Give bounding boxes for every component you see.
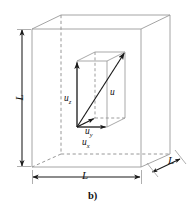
figure-caption: b) xyxy=(88,190,97,201)
figure-container: L L L u uz uy ux b) xyxy=(0,0,195,207)
cube-vector-diagram xyxy=(0,0,195,207)
label-vector-uy-sub: y xyxy=(90,131,93,138)
label-vector-uz: uz xyxy=(64,94,71,105)
label-vector-ux: ux xyxy=(82,138,90,149)
cube-visible-edges xyxy=(32,15,170,167)
cube-hidden-edges xyxy=(32,15,170,167)
label-depth-L: L xyxy=(168,155,174,166)
vector-u-resultant xyxy=(77,53,124,127)
label-height-L: L xyxy=(14,90,25,106)
label-vector-u-symbol: u xyxy=(110,87,115,97)
label-vector-u: u xyxy=(110,88,115,98)
label-vector-uz-sub: z xyxy=(69,98,72,105)
label-vector-ux-sub: x xyxy=(87,142,90,149)
label-width-L: L xyxy=(82,170,88,181)
